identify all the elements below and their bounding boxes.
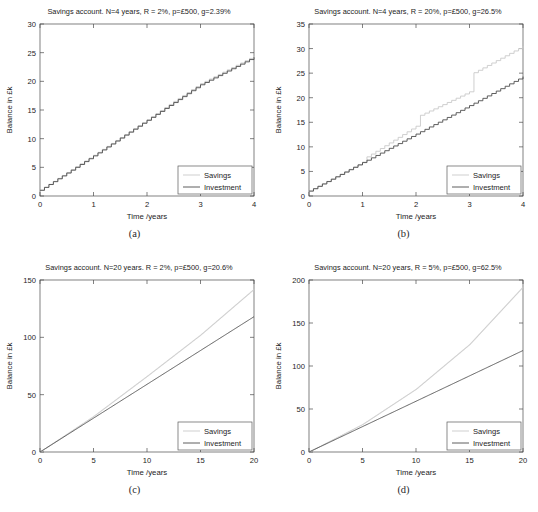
x-tick-label: 1 bbox=[360, 200, 364, 209]
plot-title-d: Savings account. N=20 years, R = 5%, p=£… bbox=[314, 263, 502, 272]
legend-label-investment: Investment bbox=[473, 439, 511, 448]
legend-label-savings: Savings bbox=[204, 427, 231, 436]
x-tick-label: 10 bbox=[143, 456, 151, 465]
legend-label-investment: Investment bbox=[473, 183, 511, 192]
x-tick-label: 5 bbox=[360, 456, 364, 465]
legend-label-investment: Investment bbox=[204, 183, 242, 192]
y-tick-label: 20 bbox=[28, 77, 36, 86]
y-tick-label: 5 bbox=[32, 163, 36, 172]
plot-title-a: Savings account. N=4 years, R = 2%, p=£5… bbox=[47, 7, 231, 16]
x-axis-label: Time /years bbox=[127, 212, 168, 221]
x-tick-label: 1 bbox=[91, 200, 95, 209]
y-tick-label: 0 bbox=[301, 448, 305, 457]
panel-c: Savings account. N=20 years. R = 2%, p=£… bbox=[0, 256, 269, 512]
plot-b-svg: Savings account. N=4 years, R = 20%, p=£… bbox=[269, 0, 538, 232]
x-axis-label: Time /years bbox=[396, 468, 437, 477]
x-tick-label: 2 bbox=[414, 200, 418, 209]
subfigure-caption-a: (a) bbox=[0, 228, 269, 239]
subfigure-caption-d: (d) bbox=[269, 484, 538, 495]
y-tick-label: 100 bbox=[292, 362, 305, 371]
y-axis-label: Balance in £k bbox=[5, 342, 14, 389]
y-tick-label: 150 bbox=[23, 276, 36, 285]
plot-title-c: Savings account. N=20 years. R = 2%, p=£… bbox=[45, 263, 233, 272]
y-tick-label: 10 bbox=[297, 143, 305, 152]
y-tick-label: 20 bbox=[297, 94, 305, 103]
subfigure-caption-c: (c) bbox=[0, 484, 269, 495]
x-tick-label: 4 bbox=[521, 200, 525, 209]
y-tick-label: 5 bbox=[301, 167, 305, 176]
y-tick-label: 10 bbox=[28, 135, 36, 144]
y-tick-label: 0 bbox=[32, 448, 36, 457]
plot-b: Savings account. N=4 years, R = 20%, p=£… bbox=[269, 0, 538, 232]
y-axis-label: Balance in £k bbox=[274, 342, 283, 389]
panel-b: Savings account. N=4 years, R = 20%, p=£… bbox=[269, 0, 538, 256]
y-tick-label: 25 bbox=[28, 49, 36, 58]
subfigure-caption-b: (b) bbox=[269, 228, 538, 239]
x-tick-label: 20 bbox=[250, 456, 258, 465]
figure-grid: Savings account. N=4 years, R = 2%, p=£5… bbox=[0, 0, 538, 512]
x-tick-label: 2 bbox=[145, 200, 149, 209]
y-tick-label: 0 bbox=[32, 192, 36, 201]
x-axis-label: Time /years bbox=[127, 468, 168, 477]
plot-d-svg: Savings account. N=20 years, R = 5%, p=£… bbox=[269, 256, 538, 488]
x-tick-label: 15 bbox=[196, 456, 204, 465]
y-tick-label: 50 bbox=[297, 405, 305, 414]
plot-c-svg: Savings account. N=20 years. R = 2%, p=£… bbox=[0, 256, 269, 488]
y-tick-label: 100 bbox=[23, 333, 36, 342]
x-tick-label: 0 bbox=[307, 200, 311, 209]
plot-a: Savings account. N=4 years, R = 2%, p=£5… bbox=[0, 0, 269, 232]
plot-d: Savings account. N=20 years, R = 5%, p=£… bbox=[269, 256, 538, 488]
x-tick-label: 20 bbox=[519, 456, 527, 465]
plot-a-svg: Savings account. N=4 years, R = 2%, p=£5… bbox=[0, 0, 269, 232]
x-tick-label: 0 bbox=[307, 456, 311, 465]
x-tick-label: 0 bbox=[38, 200, 42, 209]
legend-label-savings: Savings bbox=[473, 427, 500, 436]
y-tick-label: 30 bbox=[28, 20, 36, 29]
x-tick-label: 3 bbox=[198, 200, 202, 209]
x-tick-label: 0 bbox=[38, 456, 42, 465]
y-tick-label: 150 bbox=[292, 319, 305, 328]
y-tick-label: 30 bbox=[297, 45, 305, 54]
x-tick-label: 5 bbox=[91, 456, 95, 465]
y-tick-label: 15 bbox=[297, 118, 305, 127]
y-tick-label: 50 bbox=[28, 391, 36, 400]
x-tick-label: 15 bbox=[465, 456, 473, 465]
y-axis-label: Balance in £k bbox=[5, 86, 14, 133]
x-tick-label: 4 bbox=[252, 200, 256, 209]
x-axis-label: Time /years bbox=[396, 212, 437, 221]
legend-label-savings: Savings bbox=[204, 171, 231, 180]
plot-title-b: Savings account. N=4 years, R = 20%, p=£… bbox=[314, 7, 502, 16]
y-tick-label: 15 bbox=[28, 106, 36, 115]
y-tick-label: 0 bbox=[301, 192, 305, 201]
panel-a: Savings account. N=4 years, R = 2%, p=£5… bbox=[0, 0, 269, 256]
x-tick-label: 3 bbox=[467, 200, 471, 209]
y-tick-label: 35 bbox=[297, 20, 305, 29]
panel-d: Savings account. N=20 years, R = 5%, p=£… bbox=[269, 256, 538, 512]
legend-label-savings: Savings bbox=[473, 171, 500, 180]
plot-c: Savings account. N=20 years. R = 2%, p=£… bbox=[0, 256, 269, 488]
x-tick-label: 10 bbox=[412, 456, 420, 465]
y-tick-label: 200 bbox=[292, 276, 305, 285]
y-axis-label: Balance in £k bbox=[274, 86, 283, 133]
legend-label-investment: Investment bbox=[204, 439, 242, 448]
y-tick-label: 25 bbox=[297, 69, 305, 78]
